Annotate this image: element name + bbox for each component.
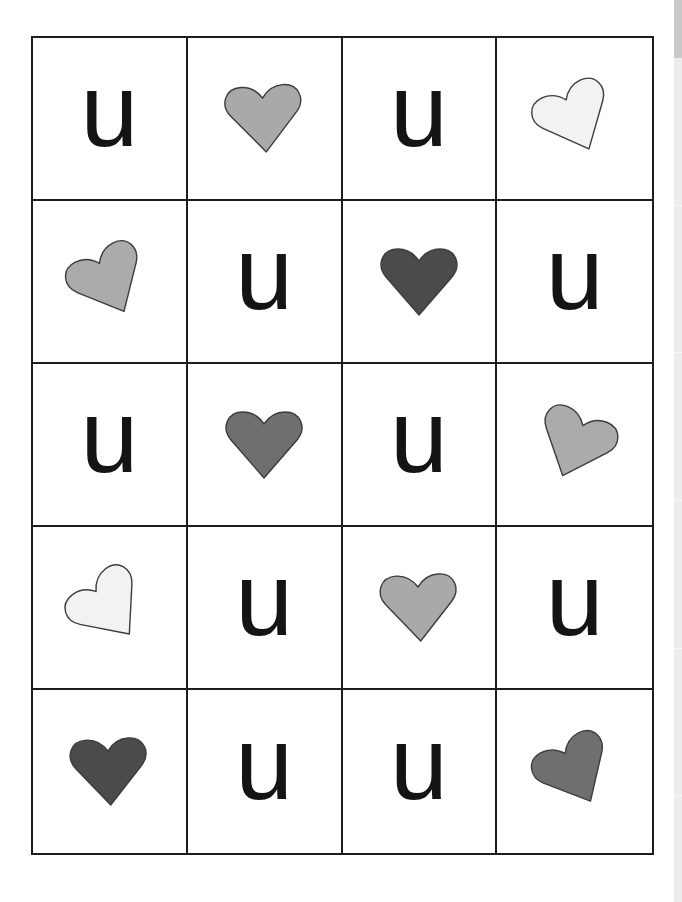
heart-cell (188, 38, 343, 201)
letter-cell: u (343, 38, 498, 201)
letter-u: u (390, 711, 448, 815)
letter-cell: u (497, 201, 652, 364)
heart-cell (343, 527, 498, 690)
scrollbar-divider (674, 795, 682, 796)
heart-icon (56, 554, 163, 660)
letter-cell: u (188, 527, 343, 690)
letter-cell: u (33, 364, 188, 527)
heart-cell (33, 690, 188, 853)
letter-cell: u (33, 38, 188, 201)
heart-cell (33, 201, 188, 364)
heart-icon (225, 408, 303, 482)
letter-cell: u (188, 690, 343, 853)
heart-icon (380, 245, 458, 319)
letter-u: u (390, 58, 448, 162)
letter-u: u (80, 58, 138, 162)
heart-cell (343, 201, 498, 364)
heart-cell (497, 364, 652, 527)
letter-u: u (546, 221, 604, 325)
scrollbar-divider (674, 205, 682, 206)
heart-cell (188, 364, 343, 527)
heart-icon (523, 721, 627, 823)
heart-cell (33, 527, 188, 690)
letter-u: u (546, 547, 604, 651)
letter-u: u (235, 547, 293, 651)
scrollbar-thumb[interactable] (674, 0, 682, 58)
heart-icon (378, 569, 460, 647)
heart-icon (223, 79, 306, 158)
scrollbar-divider (674, 500, 682, 501)
worksheet-page: u u u u u u u u u u (0, 0, 674, 902)
heart-icon (58, 231, 161, 332)
heart-icon (68, 733, 150, 811)
letter-u: u (235, 711, 293, 815)
letter-heart-grid: u u u u u u u u u u (31, 36, 654, 855)
heart-cell (497, 38, 652, 201)
heart-icon (525, 396, 625, 494)
letter-cell: u (497, 527, 652, 690)
heart-icon (524, 68, 626, 168)
letter-u: u (235, 221, 293, 325)
letter-cell: u (188, 201, 343, 364)
heart-cell (497, 690, 652, 853)
letter-cell: u (343, 690, 498, 853)
letter-cell: u (343, 364, 498, 527)
letter-u: u (80, 384, 138, 488)
scrollbar-divider (674, 648, 682, 649)
scrollbar-track[interactable] (674, 0, 682, 902)
scrollbar-divider (674, 352, 682, 353)
letter-u: u (390, 384, 448, 488)
